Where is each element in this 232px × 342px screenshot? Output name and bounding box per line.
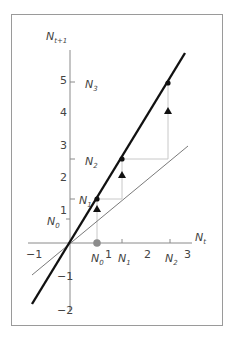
triangle-marker-3 [164, 107, 172, 114]
y-tick-label-minus1: −1 [57, 270, 73, 283]
y-marker-n3: N3 [85, 78, 98, 93]
triangle-marker-2 [118, 171, 126, 178]
y-tick-label-1: 1 [60, 204, 67, 217]
x-marker-n1: N1 [118, 252, 131, 267]
y-marker-n1: N1 [79, 194, 92, 209]
axes [28, 50, 192, 312]
triangle-marker-1 [93, 205, 101, 212]
point-dot-n2 [119, 156, 124, 161]
y-tick-label-3: 3 [60, 139, 67, 152]
cobweb-diagram: Nt+1 Nt −1 1 2 3 5 4 3 2 1 −1 −2 N3 N2 N… [0, 0, 232, 342]
y-tick-label-4: 4 [60, 106, 67, 119]
y-tick-label-5: 5 [60, 74, 67, 87]
y-marker-n0: N0 [47, 215, 60, 230]
y-tick-label-2: 2 [60, 171, 67, 184]
x-marker-n2: N2 [165, 252, 178, 267]
x-marker-n0: N0 [91, 252, 104, 267]
y-axis-label: Nt+1 [46, 30, 67, 45]
x-tick-label-1: 1 [105, 248, 112, 261]
cobweb-guides [97, 83, 168, 243]
y-tick-label-minus2: −2 [57, 304, 73, 317]
y-marker-n2: N2 [85, 155, 98, 170]
x-axis-label: Nt [195, 231, 206, 246]
start-circle-n0 [93, 239, 101, 247]
x-tick-label-minus1: −1 [26, 248, 42, 261]
growth-line [32, 53, 185, 304]
x-tick-label-2: 2 [144, 248, 151, 261]
point-dot-n3 [165, 80, 170, 85]
point-dot-n1 [94, 196, 99, 201]
x-tick-label-3: 3 [184, 248, 191, 261]
